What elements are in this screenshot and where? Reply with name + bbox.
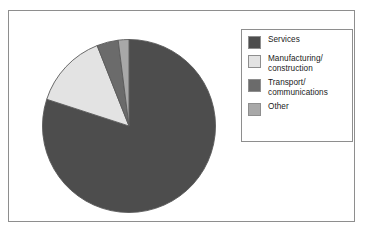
chart-legend-items: Services Manufacturing/ construction Tra… [242,30,352,141]
legend-label-other: Other [268,102,289,112]
legend-swatch-other [248,103,261,116]
legend-swatch-services [248,36,261,49]
figure-container: Services Manufacturing/ construction Tra… [0,0,368,236]
legend-label-services: Services [268,35,300,45]
legend-label-manufacturing-construction: Manufacturing/ construction [268,54,323,73]
pie-chart [42,39,216,213]
figure-frame: Services Manufacturing/ construction Tra… [8,10,355,222]
pie-chart-svg [42,39,216,213]
legend-swatch-transport-communications [248,79,261,92]
pie-slice-group [42,40,215,213]
legend-item-services[interactable]: Services [248,35,348,49]
legend-swatch-manufacturing-construction [248,55,261,68]
legend-label-transport-communications: Transport/ communications [268,78,328,97]
legend-item-manufacturing-construction[interactable]: Manufacturing/ construction [248,54,348,73]
chart-legend: Services Manufacturing/ construction Tra… [241,29,353,142]
legend-item-transport-communications[interactable]: Transport/ communications [248,78,348,97]
legend-item-other[interactable]: Other [248,102,348,116]
